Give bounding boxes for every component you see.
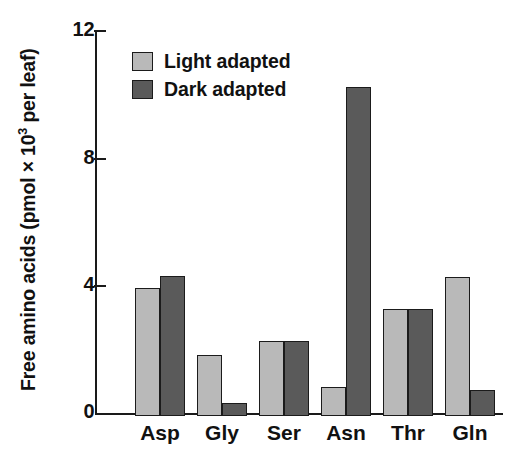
- x-tick-label-asn: Asn: [314, 421, 378, 445]
- y-axis-title-text: Free amino acids (pmol × 103 per leaf): [16, 49, 40, 391]
- bar-chart-figure: Free amino acids (pmol × 103 per leaf) 1…: [0, 0, 522, 470]
- y-tick-label-0: 0: [84, 401, 95, 421]
- bar-thr-light-adapted[interactable]: [383, 309, 408, 416]
- y-tick-label-12: 12: [72, 19, 94, 39]
- x-tick-label-thr: Thr: [376, 421, 440, 445]
- y-axis-title-after: per leaf): [17, 49, 39, 128]
- bar-gly-dark-adapted[interactable]: [222, 403, 247, 416]
- chart-legend: Light adapted Dark adapted: [132, 50, 291, 101]
- legend-swatch-light-adapted-icon: [132, 52, 153, 71]
- y-tick-label-4: 4: [84, 274, 95, 294]
- bar-asp-light-adapted[interactable]: [135, 288, 160, 416]
- bar-ser-dark-adapted[interactable]: [284, 341, 309, 416]
- legend-label-light-adapted: Light adapted: [164, 50, 291, 73]
- bar-asp-dark-adapted[interactable]: [160, 276, 185, 416]
- bar-gln-dark-adapted[interactable]: [470, 390, 495, 416]
- legend-label-dark-adapted: Dark adapted: [164, 78, 286, 101]
- legend-item-dark-adapted[interactable]: Dark adapted: [132, 78, 291, 101]
- x-tick-label-asp: Asp: [128, 421, 192, 445]
- bar-gly-light-adapted[interactable]: [197, 355, 222, 416]
- bar-group-thr: [383, 30, 433, 416]
- bar-group-gln: [445, 30, 495, 416]
- bar-asn-light-adapted[interactable]: [321, 387, 346, 416]
- legend-item-light-adapted[interactable]: Light adapted: [132, 50, 291, 73]
- bar-asn-dark-adapted[interactable]: [346, 87, 371, 416]
- bar-thr-dark-adapted[interactable]: [408, 309, 433, 416]
- x-tick-label-gly: Gly: [190, 421, 254, 445]
- x-tick-label-ser: Ser: [252, 421, 316, 445]
- legend-swatch-dark-adapted-icon: [132, 80, 153, 99]
- y-tick-label-8: 8: [84, 147, 95, 167]
- x-tick-label-gln: Gln: [438, 421, 502, 445]
- y-axis-title: Free amino acids (pmol × 103 per leaf): [0, 0, 56, 440]
- bar-group-asn: [321, 30, 371, 416]
- bar-gln-light-adapted[interactable]: [445, 277, 470, 416]
- y-axis-title-exponent: 3: [16, 128, 30, 135]
- bar-ser-light-adapted[interactable]: [259, 341, 284, 416]
- y-axis-title-before: Free amino acids (pmol × 10: [17, 135, 39, 391]
